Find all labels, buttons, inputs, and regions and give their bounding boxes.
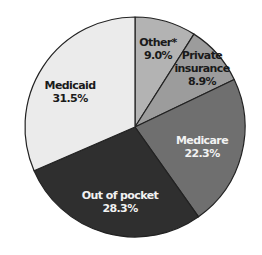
label-private-value: 8.9% [188, 75, 217, 88]
label-other-name: Other* [139, 36, 177, 49]
label-private-line1: Private [182, 49, 223, 62]
label-private-line2: insurance [174, 62, 229, 75]
pie-chart: Other* 9.0% Private insurance 8.9% Medic… [0, 0, 262, 255]
label-medicaid-value: 31.5% [52, 92, 88, 105]
label-medicare-name: Medicare [176, 134, 228, 147]
label-medicare-value: 22.3% [184, 147, 220, 160]
label-other: Other* 9.0% [139, 36, 177, 62]
label-oop-value: 28.3% [102, 202, 138, 215]
label-medicaid-name: Medicaid [45, 79, 96, 92]
label-other-value: 9.0% [144, 49, 173, 62]
label-oop-name: Out of pocket [82, 189, 159, 202]
